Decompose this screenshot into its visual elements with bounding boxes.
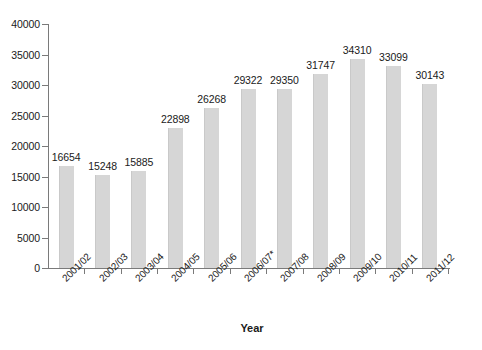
bar-value-label: 22898 <box>153 114 197 125</box>
y-axis-label-slot: 35000 <box>0 50 40 61</box>
x-axis-tick <box>412 269 413 274</box>
bar <box>386 66 401 268</box>
y-axis-label-slot: 40000 <box>0 19 40 30</box>
y-axis-tick-label: 40000 <box>2 19 40 30</box>
y-axis-tick-label: 0 <box>2 263 40 274</box>
x-axis-tick <box>448 269 449 274</box>
x-axis-tick <box>230 269 231 274</box>
y-axis-label-slot: 30000 <box>0 80 40 91</box>
bar <box>277 89 292 268</box>
bar-value-label: 15885 <box>117 157 161 168</box>
bar <box>350 59 365 268</box>
bar <box>422 84 437 268</box>
x-axis-tick <box>266 269 267 274</box>
x-axis-tick <box>375 269 376 274</box>
bar-value-label: 26268 <box>190 94 234 105</box>
x-axis-tick <box>84 269 85 274</box>
y-axis-tick-label: 15000 <box>2 172 40 183</box>
y-axis-tick <box>42 268 48 269</box>
bar-value-label: 33099 <box>371 52 415 63</box>
bar <box>131 171 146 268</box>
y-axis-label-slot: 10000 <box>0 202 40 213</box>
y-axis-label-slot: 15000 <box>0 172 40 183</box>
bar <box>241 89 256 268</box>
bar-value-label: 29350 <box>262 75 306 86</box>
y-axis-tick-label: 25000 <box>2 111 40 122</box>
x-axis-tick <box>303 269 304 274</box>
bar <box>95 175 110 268</box>
bar-chart: 0500010000150002000025000300003500040000… <box>0 0 482 350</box>
y-axis-label-slot: 20000 <box>0 141 40 152</box>
bar <box>59 166 74 268</box>
y-axis-tick-label: 30000 <box>2 80 40 91</box>
bar <box>168 128 183 268</box>
y-axis-tick-label: 5000 <box>2 233 40 244</box>
y-axis-label-slot: 25000 <box>0 111 40 122</box>
x-axis-title: Year <box>0 322 482 334</box>
x-axis-tick <box>121 269 122 274</box>
y-axis-label-slot: 5000 <box>0 233 40 244</box>
y-axis-tick-label: 10000 <box>2 202 40 213</box>
bar-value-label: 31747 <box>299 60 343 71</box>
y-axis-tick-label: 35000 <box>2 50 40 61</box>
x-axis-tick <box>193 269 194 274</box>
y-axis-label-slot: 0 <box>0 263 40 274</box>
x-axis-tick <box>339 269 340 274</box>
bar <box>313 74 328 268</box>
x-axis-tick <box>157 269 158 274</box>
bar <box>204 108 219 268</box>
bar-value-label: 30143 <box>408 70 452 81</box>
y-axis-tick-label: 20000 <box>2 141 40 152</box>
